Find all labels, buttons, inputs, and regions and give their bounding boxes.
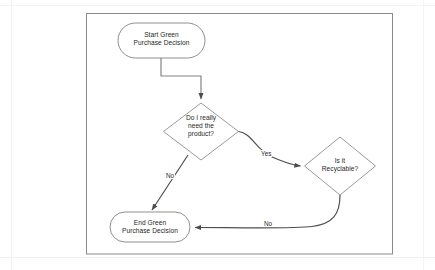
node-end-shape <box>110 212 190 242</box>
edge-start-to-need <box>161 58 201 99</box>
node-start-shape <box>118 23 205 58</box>
edge-need-yes-recyclable <box>239 132 301 167</box>
flowchart-page: Start Green Purchase Decision Do I reall… <box>0 0 435 270</box>
node-need-shape <box>164 103 239 160</box>
edge-recyclable-no-end <box>195 195 340 228</box>
flowchart-canvas <box>0 0 435 270</box>
edge-need-no-end <box>152 155 188 210</box>
node-recyclable-shape <box>305 137 376 195</box>
